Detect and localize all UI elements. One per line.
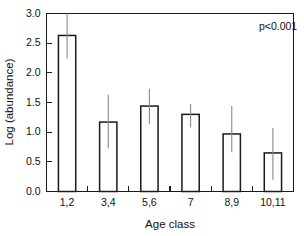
y-tick-label: 1.5 (26, 96, 41, 108)
y-tick-label: 2.0 (26, 66, 41, 78)
x-tick-label: 10,11 (260, 196, 286, 208)
bar (58, 35, 75, 191)
bar-chart: 0.00.51.01.52.02.53.0 1,23,45,678,910,11… (0, 0, 304, 236)
chart-annotations: p<0.001 (259, 20, 297, 32)
x-tick-label: 7 (188, 196, 194, 208)
x-axis-tick-labels: 1,23,45,678,910,11 (60, 196, 286, 208)
x-axis-title: Age class (145, 218, 195, 230)
x-tick-label: 3,4 (101, 196, 116, 208)
error-bar-series (67, 14, 273, 180)
p-value-annotation: p<0.001 (259, 20, 297, 32)
axis-frame (47, 14, 294, 192)
y-tick-label: 0.0 (26, 185, 41, 197)
x-tick-label: 5,6 (142, 196, 157, 208)
y-tick-label: 1.0 (26, 125, 41, 137)
y-tick-label: 3.0 (26, 7, 41, 19)
y-axis-tick-labels: 0.00.51.01.52.02.53.0 (26, 7, 41, 197)
plot-frame (47, 14, 294, 192)
y-tick-label: 0.5 (26, 155, 41, 167)
x-tick-label: 8,9 (224, 196, 239, 208)
bar-series (58, 35, 281, 191)
y-axis-title: Log (abundance) (3, 58, 15, 145)
y-tick-label: 2.5 (26, 36, 41, 48)
chart-figure: 0.00.51.01.52.02.53.0 1,23,45,678,910,11… (0, 0, 304, 236)
x-tick-label: 1,2 (60, 196, 75, 208)
